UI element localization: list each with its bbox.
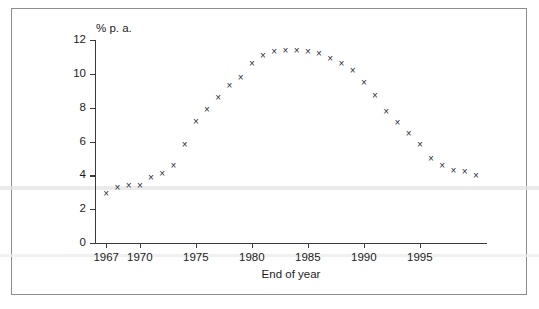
- chart-figure: % p. a. 024681012 1967197019751980198519…: [0, 0, 539, 309]
- x-tick-label: 1970: [127, 252, 153, 264]
- data-point: [236, 73, 245, 82]
- y-tick-mark: [90, 74, 95, 75]
- y-tick-label: 10: [73, 68, 86, 80]
- data-point: [438, 161, 447, 170]
- x-tick-mark: [196, 243, 197, 248]
- data-point: [281, 46, 290, 55]
- data-point: [359, 78, 368, 87]
- y-tick-label: 8: [80, 102, 86, 114]
- data-point: [203, 105, 212, 114]
- x-tick-mark: [308, 243, 309, 248]
- data-point: [124, 181, 133, 190]
- y-tick-label: 4: [80, 170, 86, 182]
- data-point: [427, 154, 436, 163]
- data-point: [337, 59, 346, 68]
- data-point: [460, 167, 469, 176]
- data-point: [169, 161, 178, 170]
- x-tick-mark: [420, 243, 421, 248]
- y-tick-mark: [90, 175, 95, 176]
- data-point: [158, 169, 167, 178]
- x-tick-label: 1967: [93, 252, 119, 264]
- x-tick-label: 1990: [351, 252, 377, 264]
- data-point: [180, 140, 189, 149]
- data-point: [303, 47, 312, 56]
- data-point: [393, 118, 402, 127]
- plot-area: 024681012 1967197019751980198519901995: [95, 40, 490, 245]
- y-tick-mark: [90, 142, 95, 143]
- data-point: [259, 51, 268, 60]
- y-tick-mark: [90, 209, 95, 210]
- data-point: [113, 183, 122, 192]
- y-tick-label: 0: [80, 237, 86, 249]
- data-point: [382, 107, 391, 116]
- y-tick-label: 12: [73, 34, 86, 46]
- x-tick-label: 1995: [407, 252, 433, 264]
- data-point: [135, 181, 144, 190]
- data-point: [225, 81, 234, 90]
- data-point: [292, 46, 301, 55]
- data-point: [315, 49, 324, 58]
- data-point: [214, 93, 223, 102]
- x-tick-label: 1980: [239, 252, 265, 264]
- data-point: [326, 54, 335, 63]
- x-tick-mark: [252, 243, 253, 248]
- x-axis-label: End of year: [95, 268, 487, 280]
- y-tick-mark: [90, 243, 95, 244]
- x-axis-line: [95, 243, 487, 244]
- x-tick-label: 1975: [183, 252, 209, 264]
- y-tick-mark: [90, 108, 95, 109]
- data-point: [191, 117, 200, 126]
- y-axis-line: [95, 40, 96, 244]
- data-point: [471, 171, 480, 180]
- x-tick-mark: [106, 243, 107, 248]
- y-tick-label: 2: [80, 203, 86, 215]
- y-tick-label: 6: [80, 136, 86, 148]
- y-axis-label: % p. a.: [96, 22, 132, 34]
- data-point: [247, 59, 256, 68]
- y-tick-mark: [90, 40, 95, 41]
- data-point: [449, 166, 458, 175]
- x-tick-mark: [364, 243, 365, 248]
- x-tick-label: 1985: [295, 252, 321, 264]
- data-point: [348, 66, 357, 75]
- data-point: [270, 47, 279, 56]
- data-point: [415, 140, 424, 149]
- x-tick-mark: [140, 243, 141, 248]
- data-point: [404, 129, 413, 138]
- data-point: [147, 173, 156, 182]
- data-point: [371, 91, 380, 100]
- data-point: [102, 189, 111, 198]
